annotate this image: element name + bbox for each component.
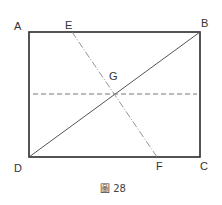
label-a: A [14,20,22,32]
geometry-figure: A E B G D F C 圖 28 [0,0,222,205]
label-c: C [200,160,208,172]
label-g: G [109,70,118,82]
label-f: F [156,160,163,172]
label-d: D [14,162,22,174]
label-e: E [65,19,72,31]
figure-caption: 圖 28 [100,183,126,194]
label-b: B [201,17,208,29]
